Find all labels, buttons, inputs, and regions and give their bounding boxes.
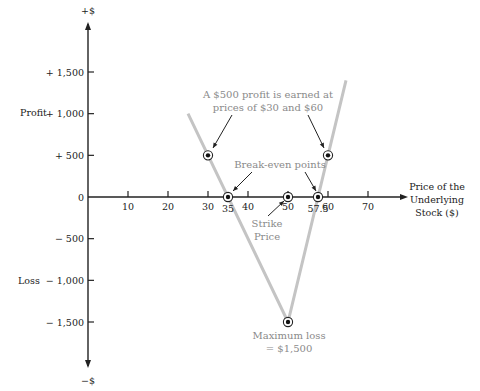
strike-annotation-line-1: Strike — [252, 218, 283, 229]
y-axis-down-arrow — [85, 360, 91, 368]
x-axis-arrow — [400, 194, 408, 200]
marker-profit-at-30 — [203, 151, 212, 160]
marker-dot — [326, 153, 330, 157]
marker-dot — [226, 195, 230, 199]
x-tick-label: 10 — [122, 201, 134, 212]
x-tick-label: 30 — [202, 201, 214, 212]
y-tick-label: + 1,000 — [46, 108, 84, 119]
x-axis-title-line-3: Stock ($) — [415, 207, 459, 218]
y-axis-up-arrow — [85, 22, 91, 30]
marker-dot — [286, 320, 290, 324]
marker-break-even-35 — [223, 192, 232, 201]
strike-annotation-line-2: Price — [254, 231, 280, 242]
x-extra-label: 35 — [222, 203, 234, 214]
x-axis-title-line-1: Price of the — [409, 181, 465, 192]
profit-annotation-line-2: prices of $30 and $60 — [213, 102, 323, 113]
y-tick-label: + 500 — [55, 150, 84, 161]
marker-dot — [316, 195, 320, 199]
y-tick-label: + 1,500 — [46, 67, 84, 78]
marker-maximum-loss — [283, 317, 292, 326]
x-tick-label: 40 — [242, 201, 254, 212]
break-even-annotation: Break-even points — [234, 159, 326, 170]
marker-strike-price-50 — [283, 192, 292, 201]
y-tick-label: − 1,500 — [46, 317, 84, 328]
payoff-chart: 102030405060703557.5+ 1,500+ 1,000+ 5000… — [0, 0, 480, 391]
y-tick-label: 0 — [78, 192, 84, 203]
y-axis-top-label: +$ — [81, 5, 95, 16]
pointer-profit-60 — [308, 115, 324, 148]
x-tick-label: 70 — [362, 201, 374, 212]
x-tick-label: 20 — [162, 201, 174, 212]
pointer-profit-30 — [213, 115, 232, 148]
y-axis-bottom-label: −$ — [81, 375, 95, 386]
profit-annotation-line-1: A $500 profit is earned at — [202, 89, 333, 100]
profit-label: Profit — [20, 107, 47, 118]
max-loss-annotation-line-2: = $1,500 — [266, 343, 313, 354]
y-tick-label: − 1,000 — [46, 275, 84, 286]
marker-dot — [206, 153, 210, 157]
max-loss-annotation-line-1: Maximum loss — [252, 330, 325, 341]
x-axis-title-line-2: Underlying — [410, 194, 464, 205]
marker-dot — [286, 195, 290, 199]
y-tick-label: − 500 — [55, 233, 84, 244]
x-extra-label: 57.5 — [307, 203, 328, 214]
loss-label: Loss — [18, 275, 40, 286]
marker-break-even-57-5 — [313, 192, 322, 201]
x-tick-label: 50 — [282, 201, 294, 212]
